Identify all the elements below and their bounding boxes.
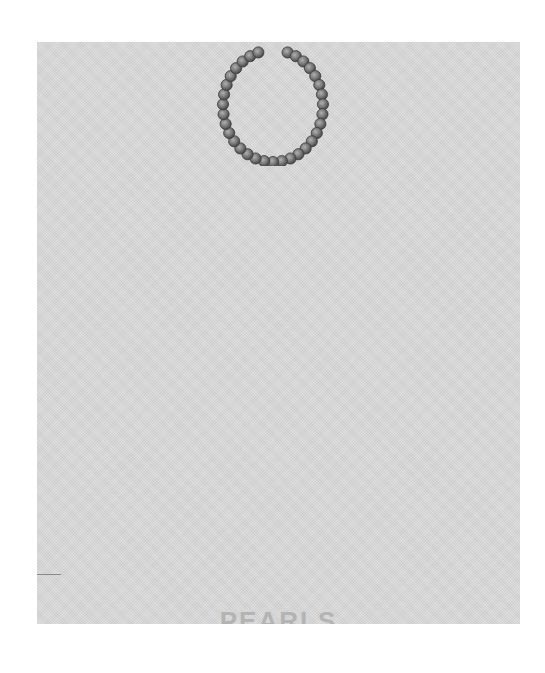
pearl-necklace-icon: [213, 42, 333, 166]
book-cover: PEARLS: [37, 42, 520, 624]
edge-tick-mark: [37, 574, 61, 575]
cover-title: PEARLS: [37, 608, 520, 624]
